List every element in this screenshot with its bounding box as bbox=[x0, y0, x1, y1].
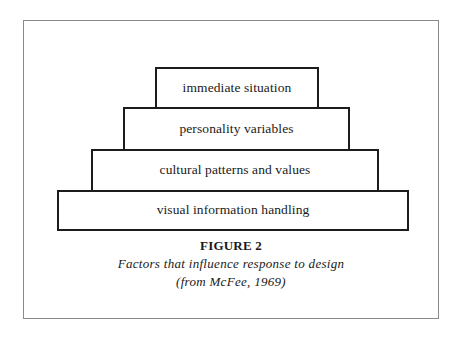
figure-description: Factors that influence response to desig… bbox=[23, 256, 439, 272]
tier-label: personality variables bbox=[179, 121, 293, 137]
pyramid-tier-1: immediate situation bbox=[155, 67, 319, 109]
figure-source: (from McFee, 1969) bbox=[23, 274, 439, 290]
tier-label: visual information handling bbox=[157, 202, 310, 218]
tier-label: immediate situation bbox=[183, 80, 292, 96]
pyramid-tier-3: cultural patterns and values bbox=[91, 149, 379, 192]
figure-label: FIGURE 2 bbox=[23, 238, 439, 254]
pyramid-tier-4: visual information handling bbox=[57, 190, 409, 231]
tier-label: cultural patterns and values bbox=[160, 162, 311, 178]
pyramid-tier-2: personality variables bbox=[123, 107, 350, 151]
